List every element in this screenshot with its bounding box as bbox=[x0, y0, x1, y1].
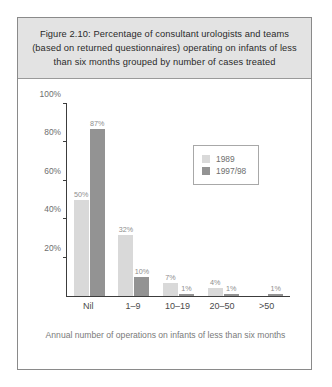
chart-legend: 1989 1997/98 bbox=[193, 145, 259, 185]
bar-1997-nil: 87% bbox=[90, 129, 105, 296]
y-tick-label-100: 100% bbox=[40, 89, 61, 99]
x-category-20-50: 20–50 bbox=[204, 301, 240, 311]
y-tick-label-60: 60% bbox=[44, 166, 61, 176]
bar-1989-20-50: 4% bbox=[208, 288, 223, 296]
bar-group-20-50: 4% 1% bbox=[208, 104, 239, 296]
bar-value-1989-10-19: 7% bbox=[165, 273, 175, 282]
bar-1997-10-19: 1% bbox=[179, 294, 194, 296]
bar-value-1997-gt50: 1% bbox=[270, 284, 280, 293]
bar-value-1989-nil: 50% bbox=[74, 190, 88, 199]
x-axis-title: Annual number of operations on infants o… bbox=[40, 329, 291, 342]
y-tick-label-80: 80% bbox=[44, 127, 61, 137]
legend-label-1989: 1989 bbox=[216, 154, 235, 164]
x-category-1-9: 1–9 bbox=[115, 301, 151, 311]
bar-1989-10-19: 7% bbox=[163, 283, 178, 296]
bar-value-1997-nil: 87% bbox=[90, 119, 104, 128]
bar-value-1997-20-50: 1% bbox=[226, 284, 236, 293]
x-axis-categories: Nil 1–9 10–19 20–50 >50 bbox=[66, 301, 289, 311]
legend-item-1989: 1989 bbox=[202, 154, 246, 164]
bar-value-1989-1-9: 32% bbox=[119, 225, 133, 234]
figure-title: Figure 2.10: Percentage of consultant ur… bbox=[18, 27, 311, 69]
bar-groups: 50% 87% 32% 10% 7% bbox=[67, 104, 290, 296]
y-tick-label-20: 20% bbox=[44, 243, 61, 253]
legend-item-1997-98: 1997/98 bbox=[202, 166, 246, 176]
x-category-nil: Nil bbox=[70, 301, 106, 311]
bar-value-1989-20-50: 4% bbox=[210, 278, 220, 287]
y-tick-label-40: 40% bbox=[44, 204, 61, 214]
bar-1989-nil: 50% bbox=[74, 200, 89, 296]
bar-value-1997-1-9: 10% bbox=[135, 267, 149, 276]
x-category-10-19: 10–19 bbox=[159, 301, 195, 311]
bar-1997-20-50: 1% bbox=[224, 294, 239, 296]
legend-label-1997-98: 1997/98 bbox=[216, 166, 246, 176]
legend-swatch-1989 bbox=[202, 155, 210, 163]
bar-1997-1-9: 10% bbox=[134, 277, 149, 296]
figure-frame: Figure 2.10: Percentage of consultant ur… bbox=[17, 17, 312, 370]
chart-body: 20% 40% 60% 80% 100% 50% 87% bbox=[18, 79, 311, 371]
x-category-gt50: >50 bbox=[249, 301, 285, 311]
bar-1989-1-9: 32% bbox=[118, 235, 133, 296]
bar-group-10-19: 7% 1% bbox=[163, 104, 194, 296]
bar-group-nil: 50% 87% bbox=[74, 104, 105, 296]
bar-group-gt50: 1% bbox=[252, 104, 283, 296]
bar-value-1997-10-19: 1% bbox=[181, 284, 191, 293]
bar-group-1-9: 32% 10% bbox=[118, 104, 149, 296]
figure-title-band: Figure 2.10: Percentage of consultant ur… bbox=[18, 18, 311, 79]
legend-swatch-1997-98 bbox=[202, 167, 210, 175]
bar-1997-gt50: 1% bbox=[268, 294, 283, 296]
plot-area: 20% 40% 60% 80% 100% 50% 87% bbox=[66, 104, 290, 297]
